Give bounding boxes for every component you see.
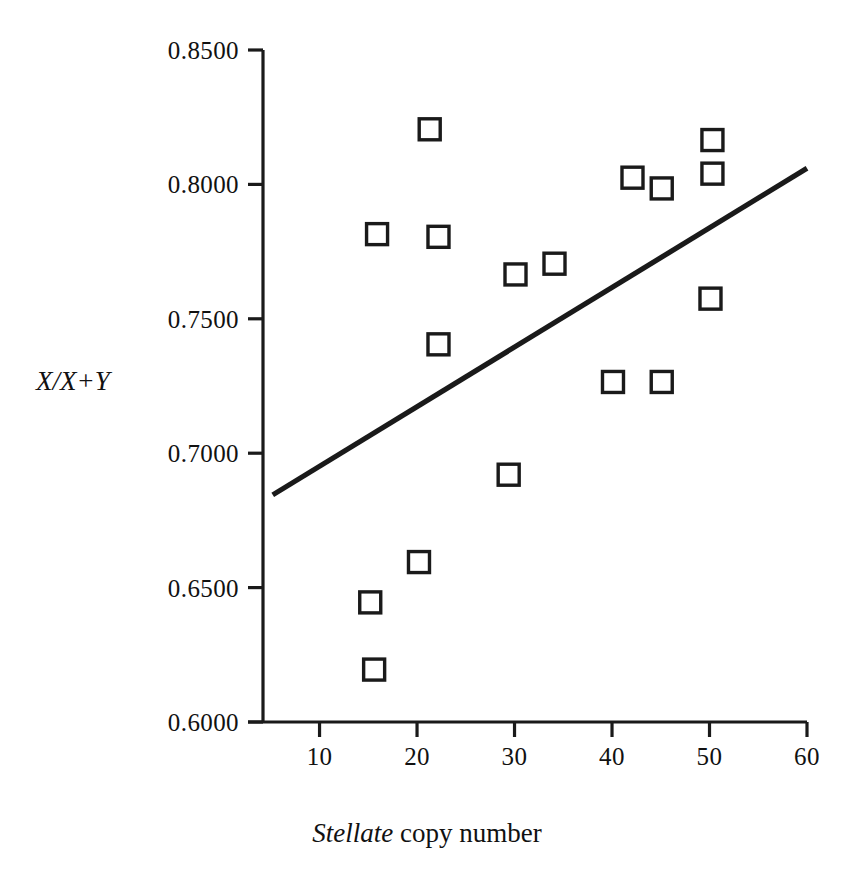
data-point-marker <box>408 552 429 573</box>
data-point-marker <box>505 264 526 285</box>
x-axis-title: Stellate copy number <box>0 818 854 849</box>
y-tick-label-3: 0.7500 <box>168 306 239 331</box>
data-point-marker <box>651 371 672 392</box>
data-point-marker <box>651 178 672 199</box>
x-tick-label-1: 20 <box>404 744 430 769</box>
x-axis-title-roman: copy number <box>400 818 542 848</box>
data-points <box>360 119 723 680</box>
data-point-marker <box>622 167 643 188</box>
y-tick-label-5: 0.8500 <box>168 38 239 63</box>
data-point-marker <box>364 659 385 680</box>
data-point-marker <box>702 130 723 151</box>
y-tick-label-0: 0.6000 <box>168 710 239 735</box>
y-tick-label-2: 0.7000 <box>168 441 239 466</box>
data-point-marker <box>602 371 623 392</box>
data-point-marker <box>700 288 721 309</box>
x-axis-title-italic: Stellate <box>312 818 393 848</box>
scatter-plot-figure: 0.60000.65000.70000.75000.80000.8500 102… <box>0 0 854 888</box>
data-point-marker <box>702 163 723 184</box>
data-point-marker <box>367 224 388 245</box>
x-tick-label-0: 10 <box>307 744 333 769</box>
data-point-marker <box>544 253 565 274</box>
y-tick-label-4: 0.8000 <box>168 172 239 197</box>
x-tick-label-5: 60 <box>794 744 820 769</box>
data-point-marker <box>428 334 449 355</box>
regression-line <box>273 168 807 495</box>
x-tick-label-4: 50 <box>697 744 723 769</box>
x-tick-label-2: 30 <box>502 744 528 769</box>
data-point-marker <box>360 592 381 613</box>
data-point-marker <box>498 464 519 485</box>
data-point-marker <box>419 119 440 140</box>
data-point-marker <box>428 226 449 247</box>
trend-line <box>273 168 807 495</box>
y-axis-title: X/X+Y <box>36 366 110 397</box>
x-tick-label-3: 40 <box>599 744 625 769</box>
y-tick-label-1: 0.6500 <box>168 575 239 600</box>
axis-ticks <box>248 50 807 737</box>
